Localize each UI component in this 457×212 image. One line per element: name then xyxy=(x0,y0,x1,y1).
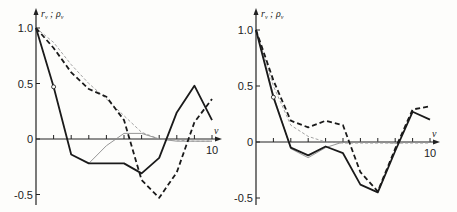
y-axis-arrow-icon xyxy=(34,8,39,15)
series-line-solid-thick xyxy=(256,30,430,192)
x-axis-arrow-icon xyxy=(215,137,222,142)
x-axis-title: ν xyxy=(432,128,437,139)
y-tick-label: 0 xyxy=(247,136,253,148)
chart-panel-left: 1.00.50-0.510νrν ; ρν xyxy=(14,8,222,205)
y-axis-title: rν ; ρν xyxy=(41,8,64,20)
x-axis-arrow-icon xyxy=(433,140,440,145)
y-tick-label: 0.5 xyxy=(18,78,33,90)
y-axis-arrow-icon xyxy=(254,8,259,15)
y-tick-label: 1.0 xyxy=(238,24,253,36)
y-axis-title: rν ; ρν xyxy=(261,8,284,20)
series-line-solid-thick xyxy=(36,28,212,173)
series-line-solid-thin xyxy=(89,133,212,163)
y-tick-label: -0.5 xyxy=(234,192,253,204)
series-line-dashed-thick xyxy=(256,30,430,191)
circle-marker-icon xyxy=(271,95,275,99)
circle-marker-icon xyxy=(52,85,56,89)
x-axis-title: ν xyxy=(214,125,219,136)
y-tick-label: 0 xyxy=(27,133,33,145)
y-tick-label: -0.5 xyxy=(14,189,33,201)
chart-panel-right: 1.00.50-0.510νrν ; ρν xyxy=(234,8,440,205)
y-tick-label: 0.5 xyxy=(238,80,253,92)
y-tick-label: 1.0 xyxy=(18,22,33,34)
autocorrelation-figure: 1.00.50-0.510νrν ; ρν 1.00.50-0.510νrν ;… xyxy=(0,0,457,212)
x-tick-label: 10 xyxy=(206,144,218,156)
x-tick-label: 10 xyxy=(424,147,436,159)
